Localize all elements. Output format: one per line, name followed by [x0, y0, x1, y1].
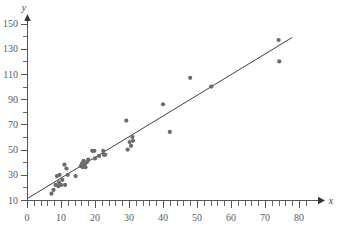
- data-point: [168, 130, 172, 134]
- axis-tick-labels: 010203040506070801030507090110130150: [3, 18, 304, 223]
- data-point: [188, 76, 192, 80]
- data-point: [93, 156, 97, 160]
- data-point: [83, 165, 87, 169]
- data-point: [126, 148, 130, 152]
- y-axis-tick-label: 130: [3, 43, 18, 54]
- x-axis-tick-label: 80: [294, 212, 304, 223]
- data-points: [49, 38, 281, 196]
- data-point: [58, 173, 62, 177]
- y-axis-tick-label: 50: [8, 144, 18, 155]
- x-axis-arrow-icon: [318, 197, 325, 204]
- y-axis-tick-label: 30: [8, 169, 18, 180]
- data-point: [97, 154, 101, 158]
- data-point: [277, 59, 281, 63]
- x-axis-tick-label: 0: [25, 212, 30, 223]
- data-point: [124, 119, 128, 123]
- data-point: [51, 188, 55, 192]
- data-point: [64, 166, 68, 170]
- x-axis-tick-label: 30: [124, 212, 134, 223]
- x-axis-label: x: [328, 195, 334, 206]
- y-axis-tick-label: 110: [3, 69, 18, 80]
- data-point: [59, 183, 63, 187]
- data-point: [161, 102, 165, 106]
- data-point: [277, 38, 281, 42]
- data-point: [130, 135, 134, 139]
- data-point: [49, 192, 53, 196]
- scatter-chart: 010203040506070801030507090110130150 yx: [0, 0, 340, 242]
- y-axis-arrow-icon: [24, 14, 30, 21]
- data-point: [74, 174, 78, 178]
- x-axis-tick-label: 40: [158, 212, 168, 223]
- data-point: [101, 149, 105, 153]
- plot-canvas: 010203040506070801030507090110130150 yx: [0, 0, 340, 242]
- y-axis-tick-label: 70: [8, 119, 18, 130]
- x-axis-tick-label: 70: [260, 212, 270, 223]
- data-point: [92, 149, 96, 153]
- y-axis-tick-label: 10: [8, 195, 18, 206]
- data-point: [62, 163, 66, 167]
- x-axis-tick-label: 20: [90, 212, 100, 223]
- data-point: [60, 178, 64, 182]
- data-point: [86, 158, 90, 162]
- x-axis-tick-label: 10: [56, 212, 66, 223]
- x-axis-tick-label: 50: [192, 212, 202, 223]
- data-point: [103, 153, 107, 157]
- x-axis-tick-label: 60: [226, 212, 236, 223]
- data-point: [63, 183, 67, 187]
- data-point: [129, 144, 133, 148]
- y-axis-label: y: [21, 2, 27, 13]
- y-axis-tick-label: 150: [3, 18, 18, 29]
- data-point: [131, 139, 135, 143]
- data-point: [66, 173, 70, 177]
- data-point: [209, 85, 213, 89]
- y-axis-tick-label: 90: [8, 94, 18, 105]
